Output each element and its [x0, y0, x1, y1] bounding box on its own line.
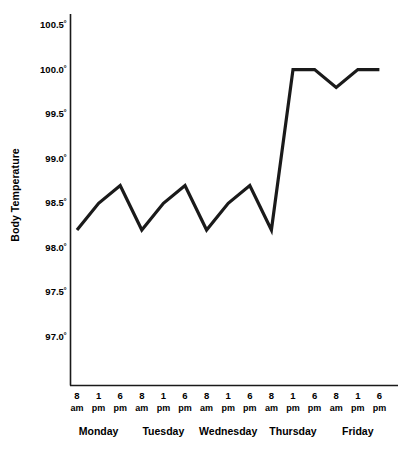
x-axis-tick-hour: 6: [366, 390, 392, 402]
body-temperature-line-chart: Body Temperature 100.5˚100.0˚99.5˚99.0˚9…: [0, 0, 407, 454]
x-axis-tick-label: 6pm: [366, 390, 392, 414]
x-axis-tick-labels: 8am1pm6pm8am1pm6pm8am1pm6pm8am1pm6pm8am1…: [0, 0, 407, 454]
x-axis-tick-ampm: pm: [366, 402, 392, 414]
x-axis-day-label: Friday: [313, 425, 403, 437]
